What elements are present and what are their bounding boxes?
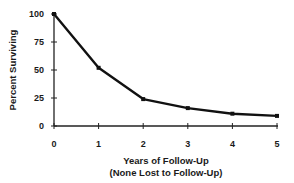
data-point: [275, 114, 279, 118]
data-point: [230, 112, 234, 116]
x-tick-label: 5: [274, 139, 279, 149]
data-markers: [52, 12, 279, 118]
y-tick-label: 25: [34, 93, 44, 103]
survival-chart: 0 25 50 75 100 0 1 2 3 4 5 Percent Survi…: [0, 0, 294, 183]
y-tick-label: 0: [39, 121, 44, 131]
x-tick-label: 0: [51, 139, 56, 149]
y-tick-label: 100: [29, 9, 44, 19]
y-tick-label: 50: [34, 65, 44, 75]
x-axis-subtitle: (None Lost to Follow-Up): [110, 167, 223, 178]
x-tick-label: 4: [230, 139, 235, 149]
x-tick-labels: 0 1 2 3 4 5: [51, 139, 279, 149]
x-tick-label: 3: [185, 139, 190, 149]
x-tick-label: 1: [96, 139, 101, 149]
x-tick-label: 2: [141, 139, 146, 149]
data-point: [97, 66, 101, 70]
data-point: [52, 12, 56, 16]
y-axis-title: Percent Surviving: [7, 29, 18, 110]
data-point: [141, 97, 145, 101]
y-tick-label: 75: [34, 37, 44, 47]
y-tick-labels: 0 25 50 75 100: [29, 9, 44, 131]
x-axis-title: Years of Follow-Up: [123, 155, 209, 166]
data-point: [186, 106, 190, 110]
survival-line: [54, 14, 277, 116]
